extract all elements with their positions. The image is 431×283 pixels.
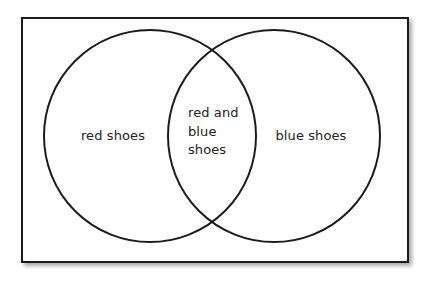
intersection-label-line-1: red and [188,105,239,120]
venn-diagram-figure: red shoes red andblueshoes blue shoes [0,0,431,283]
right-set-label: blue shoes [258,127,364,146]
intersection-set-label: red andblueshoes [188,104,252,160]
intersection-label-line-3: shoes [188,142,226,157]
intersection-label-line-2: blue [188,124,217,139]
left-set-label: red shoes [60,127,166,146]
